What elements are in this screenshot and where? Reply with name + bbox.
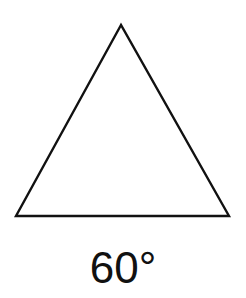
triangle-outline [16,25,229,216]
angle-label: 60° [0,244,246,292]
diagram-canvas: 60° [0,0,246,298]
